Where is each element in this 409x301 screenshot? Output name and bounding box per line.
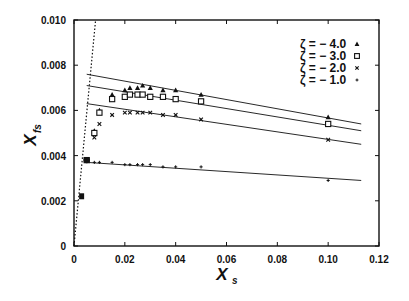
y-tick-label: 0.010 xyxy=(41,15,66,26)
x-tick-label: 0.06 xyxy=(217,254,237,265)
x-tick-label: 0.10 xyxy=(318,254,338,265)
x-axis-title-main: X xyxy=(215,265,229,284)
square-marker-icon xyxy=(160,94,165,99)
plus-marker-icon xyxy=(327,179,330,182)
plus-marker-icon xyxy=(200,165,203,168)
x-marker-icon xyxy=(174,113,178,117)
x-marker-icon xyxy=(93,136,97,140)
x-axis-title-sub: s xyxy=(232,275,238,286)
y-tick-label: 0.008 xyxy=(41,60,66,71)
square-marker-icon xyxy=(135,92,140,97)
triangle-marker-icon xyxy=(326,115,331,120)
overlap-point xyxy=(79,193,84,199)
y-tick-label: 0.004 xyxy=(41,151,66,162)
plus-marker-icon xyxy=(93,161,96,164)
square-marker-icon xyxy=(148,94,153,99)
chart: 00.020.040.060.080.100.12 00.0020.0040.0… xyxy=(0,0,409,301)
y-axis-title: X fs xyxy=(21,124,43,147)
x-tick-label: 0.04 xyxy=(166,254,186,265)
y-tick-label: 0 xyxy=(60,241,66,252)
y-axis-title-sub: fs xyxy=(32,124,43,133)
x-tick-label: 0.08 xyxy=(268,254,288,265)
square-marker-icon xyxy=(173,97,178,102)
triangle-marker-icon xyxy=(127,85,132,90)
plus-marker-icon xyxy=(149,163,152,166)
overlap-point xyxy=(84,157,90,163)
plus-marker-icon xyxy=(161,165,164,168)
x-tick-label: 0.12 xyxy=(369,254,389,265)
square-marker-icon xyxy=(97,110,102,115)
fit-line xyxy=(87,162,362,180)
x-marker-icon xyxy=(355,66,358,69)
x-marker-icon xyxy=(110,113,114,117)
x-marker-icon xyxy=(128,111,132,115)
y-axis-title-main: X xyxy=(21,133,40,147)
square-marker-icon xyxy=(355,54,360,59)
x-tick-label: 0.02 xyxy=(115,254,135,265)
square-marker-icon xyxy=(140,92,145,97)
y-tick-label: 0.002 xyxy=(41,196,66,207)
square-marker-icon xyxy=(110,97,115,102)
square-marker-icon xyxy=(198,99,203,104)
x-marker-icon xyxy=(123,111,127,115)
triangle-marker-icon xyxy=(122,87,127,92)
plus-marker-icon xyxy=(123,163,126,166)
data-markers xyxy=(79,83,331,199)
square-marker-icon xyxy=(127,92,132,97)
square-marker-icon xyxy=(326,121,331,126)
plus-marker-icon xyxy=(356,79,359,82)
legend-label: ζ = − 1.0 xyxy=(300,73,347,87)
triangle-marker-icon xyxy=(135,85,140,90)
x-marker-icon xyxy=(98,122,102,126)
x-axis-title: X s xyxy=(215,265,238,286)
square-marker-icon xyxy=(92,130,97,135)
square-marker-icon xyxy=(122,94,127,99)
x-marker-icon xyxy=(141,111,145,115)
x-tick-label: 0 xyxy=(71,254,77,265)
y-tick-label: 0.006 xyxy=(41,105,66,116)
plus-marker-icon xyxy=(111,161,114,164)
triangle-marker-icon xyxy=(355,42,360,46)
fit-lines xyxy=(87,74,362,180)
legend: ζ = − 4.0ζ = − 3.0ζ = − 2.0ζ = − 1.0 xyxy=(300,37,359,87)
